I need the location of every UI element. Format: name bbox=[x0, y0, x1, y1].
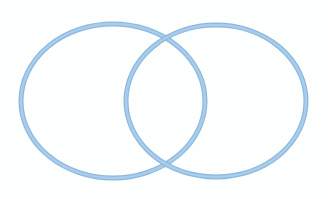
venn-diagram-svg bbox=[0, 0, 328, 199]
ellipse-right bbox=[126, 25, 306, 177]
venn-diagram bbox=[0, 0, 328, 199]
ellipse-left bbox=[21, 24, 205, 178]
